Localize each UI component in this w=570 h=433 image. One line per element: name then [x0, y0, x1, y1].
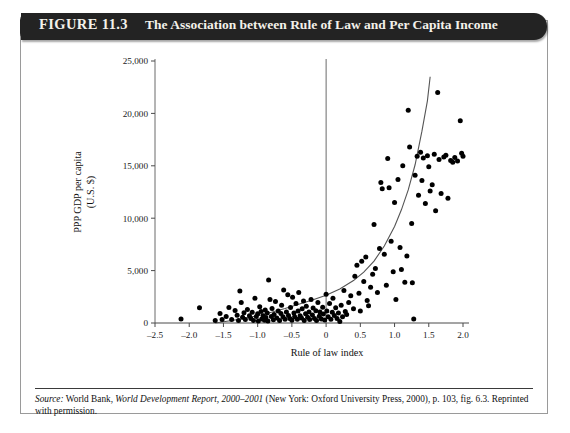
data-point: [237, 289, 242, 294]
data-point: [366, 303, 371, 308]
figure-number: FIGURE 11.3: [39, 16, 128, 33]
data-point: [389, 239, 394, 244]
data-point: [270, 306, 275, 311]
data-point: [348, 293, 353, 298]
data-point: [233, 308, 238, 313]
data-point: [458, 118, 463, 123]
data-point: [320, 305, 325, 310]
data-point: [382, 252, 387, 257]
data-point: [423, 201, 428, 206]
data-point: [218, 311, 223, 316]
data-point: [437, 157, 442, 162]
data-point: [368, 285, 373, 290]
data-point: [288, 305, 293, 310]
data-point: [392, 200, 397, 205]
data-point: [445, 196, 450, 201]
data-point: [307, 317, 312, 322]
data-point: [418, 150, 423, 155]
data-point: [285, 292, 290, 297]
source-report-title: World Development Report, 2000–2001: [115, 394, 263, 404]
data-point: [365, 298, 370, 303]
source-note: Source: World Bank, World Development Re…: [35, 393, 535, 418]
svg-text:20,000: 20,000: [123, 109, 149, 119]
data-point: [354, 263, 359, 268]
data-point: [373, 266, 378, 271]
svg-text:25,000: 25,000: [123, 56, 149, 66]
data-point: [395, 177, 400, 182]
data-point: [385, 156, 390, 161]
source-prefix: Source:: [35, 394, 64, 404]
data-point: [290, 295, 295, 300]
data-point: [372, 222, 377, 227]
data-point: [236, 318, 241, 323]
data-point: [226, 305, 231, 310]
data-point: [220, 317, 225, 322]
data-point: [402, 280, 407, 285]
data-point: [391, 269, 396, 274]
data-point: [375, 290, 380, 295]
data-point: [461, 154, 466, 159]
data-point: [443, 153, 448, 158]
data-point: [337, 319, 342, 324]
data-point: [266, 278, 271, 283]
data-point: [432, 152, 437, 157]
data-point: [281, 287, 286, 292]
x-axis-label: Rule of law index: [291, 347, 364, 358]
data-point: [406, 108, 411, 113]
chart-area: 05,00010,00015,00020,00025,000 –2.5–2.0–…: [21, 49, 547, 369]
data-point: [179, 317, 184, 322]
data-point: [243, 317, 248, 322]
data-point: [455, 159, 460, 164]
data-point: [430, 182, 435, 187]
data-point: [435, 90, 440, 95]
data-point: [415, 154, 420, 159]
data-point: [425, 153, 430, 158]
data-point: [377, 246, 382, 251]
svg-text:–0.5: –0.5: [283, 330, 300, 340]
data-point: [279, 303, 284, 308]
svg-text:1.0: 1.0: [389, 330, 401, 340]
fit-curve: [215, 77, 430, 323]
data-point: [419, 178, 424, 183]
svg-text:15,000: 15,000: [123, 161, 149, 171]
data-point: [314, 318, 319, 323]
svg-text:1.5: 1.5: [423, 330, 435, 340]
x-axis: –2.5–2.0–1.5–1.0–0.500.51.01.52.0: [146, 323, 469, 340]
data-point: [252, 296, 257, 301]
data-point: [267, 297, 272, 302]
data-point: [358, 308, 363, 313]
data-point: [400, 163, 405, 168]
data-point: [407, 144, 412, 149]
svg-text:–1.0: –1.0: [249, 330, 266, 340]
data-point: [344, 312, 349, 317]
svg-text:2.0: 2.0: [457, 330, 469, 340]
data-point: [324, 292, 329, 297]
data-point: [324, 308, 329, 313]
data-point: [426, 164, 431, 169]
svg-text:Rule of law index: Rule of law index: [291, 347, 364, 358]
data-point: [301, 298, 306, 303]
data-point: [370, 272, 375, 277]
data-point: [361, 279, 366, 284]
data-points: [179, 90, 466, 324]
data-point: [265, 319, 270, 324]
data-point: [413, 173, 418, 178]
data-point: [339, 303, 344, 308]
data-point: [309, 297, 314, 302]
data-point: [409, 221, 414, 226]
data-point: [296, 290, 301, 295]
data-point: [273, 299, 278, 304]
scatter-plot: 05,00010,00015,00020,00025,000 –2.5–2.0–…: [21, 49, 547, 369]
data-point: [393, 297, 398, 302]
data-point: [330, 296, 335, 301]
figure-title: The Association between Rule of Law and …: [145, 17, 498, 33]
data-point: [250, 310, 255, 315]
data-point: [229, 317, 234, 322]
data-point: [265, 311, 270, 316]
data-point: [346, 300, 351, 305]
svg-text:(U.S. $): (U.S. $): [85, 176, 97, 209]
data-point: [224, 314, 229, 319]
data-point: [239, 300, 244, 305]
svg-text:5,000: 5,000: [127, 266, 148, 276]
data-point: [410, 280, 415, 285]
